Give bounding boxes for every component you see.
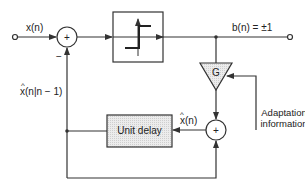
output-terminal xyxy=(288,35,293,40)
unit-delay-label: Unit delay xyxy=(117,125,161,136)
gain-label: G xyxy=(212,67,220,78)
plus-sign-2: + xyxy=(213,125,219,136)
input-label: x(n) xyxy=(26,22,43,33)
adaptation-label-line2: information xyxy=(261,118,306,129)
summing-junction-2: + xyxy=(206,120,226,140)
output-label: b(n) = ±1 xyxy=(232,22,273,33)
adaptation-label-line1: Adaptation xyxy=(261,107,305,118)
reconstructed-hat: ^ xyxy=(180,110,184,119)
input-terminal xyxy=(13,35,18,40)
summing-junction-1: + xyxy=(57,27,77,47)
quantizer-block xyxy=(113,12,163,62)
minus-sign: − xyxy=(56,51,62,62)
prediction-label: x(n|n − 1) xyxy=(20,86,62,97)
unit-delay-block: Unit delay xyxy=(107,115,172,147)
plus-sign-1: + xyxy=(64,32,70,43)
prediction-hat: ^ xyxy=(21,81,25,90)
block-diagram: x(n) + − b(n) = ±1 G Adaptation informat… xyxy=(0,0,305,191)
adaptation-line xyxy=(227,76,256,130)
